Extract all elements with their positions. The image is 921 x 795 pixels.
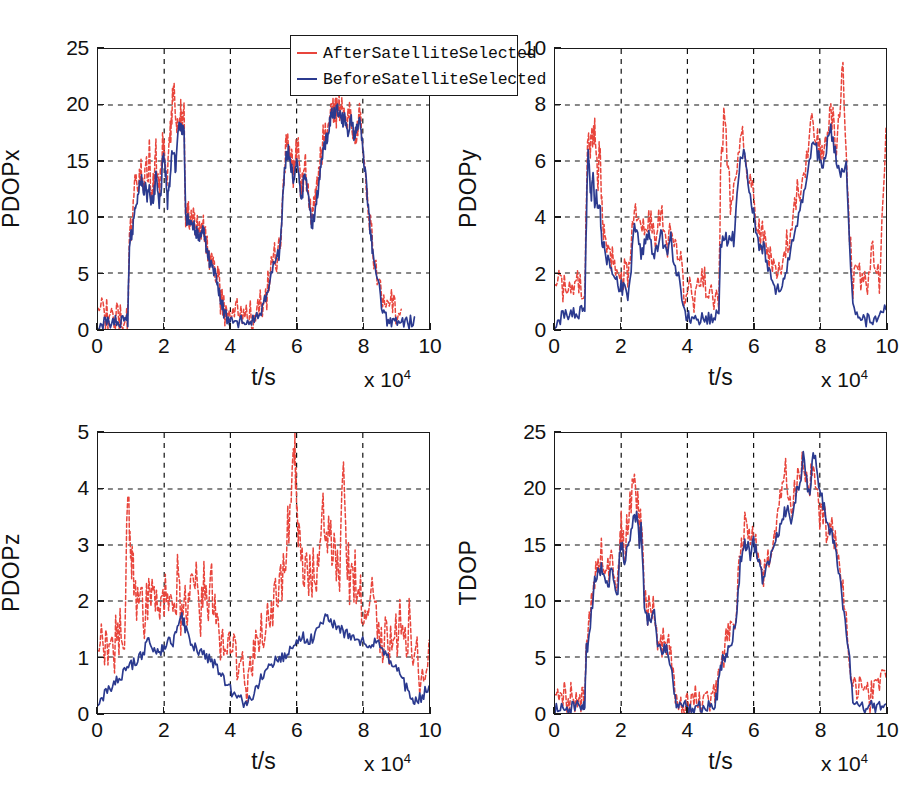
y-tick-label: 20 (498, 476, 546, 500)
y-tickmark (554, 713, 561, 715)
legend-swatch-after-icon (297, 52, 317, 54)
legend-label-after: AfterSatelliteSelected (323, 44, 536, 63)
x-tickmark (886, 707, 888, 714)
x-tick-label: 0 (548, 718, 559, 742)
x-multiplier-exponent: 4 (861, 751, 868, 766)
x-tickmark (686, 707, 688, 714)
plot-area-tdop (554, 432, 887, 714)
legend-swatch-before-icon (297, 78, 317, 80)
chart-legend: AfterSatelliteSelected BeforeSatelliteSe… (290, 35, 518, 96)
y-axis-label-tdop: TDOP (455, 503, 482, 643)
y-tickmark (554, 600, 561, 602)
x-axis-label-tdop: t/s (641, 748, 801, 775)
series-line-before (555, 452, 886, 713)
x-tick-label: 6 (748, 718, 759, 742)
y-tick-label: 25 (498, 420, 546, 444)
plot-canvas-tdop (555, 433, 886, 713)
y-tick-label: 5 (498, 646, 546, 670)
y-tick-label: 0 (498, 702, 546, 726)
x-tickmark (620, 707, 622, 714)
chart-panel-tdop: 05101520250246810TDOPt/sx 104 (0, 0, 921, 795)
x-tickmark (820, 707, 822, 714)
x-tickmark (753, 707, 755, 714)
x-multiplier-base: x 10 (821, 752, 861, 775)
figure-root: 05101520250246810PDOPxt/sx 1040246810024… (0, 0, 921, 795)
series-line-after (555, 452, 886, 713)
y-tickmark (554, 431, 561, 433)
x-tick-label: 10 (876, 718, 899, 742)
x-tick-label: 4 (681, 718, 692, 742)
y-tickmark (554, 544, 561, 546)
x-axis-multiplier-tdop: x 104 (821, 752, 868, 776)
y-tickmark (554, 657, 561, 659)
legend-item-before: BeforeSatelliteSelected (297, 66, 509, 92)
y-tick-label: 15 (498, 533, 546, 557)
x-tick-label: 8 (815, 718, 826, 742)
legend-label-before: BeforeSatelliteSelected (323, 70, 546, 89)
y-tick-label: 10 (498, 589, 546, 613)
x-tickmark (553, 707, 555, 714)
y-tickmark (554, 488, 561, 490)
x-tick-label: 2 (615, 718, 626, 742)
legend-item-after: AfterSatelliteSelected (297, 40, 509, 66)
